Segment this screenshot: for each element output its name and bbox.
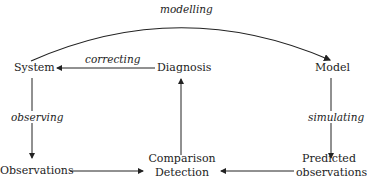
edge-label-modelling: modelling: [160, 3, 213, 15]
node-predicted-observations: Predicted observations: [296, 152, 362, 180]
predicted-label: Predicted: [296, 152, 362, 166]
node-diagnosis: Diagnosis: [157, 61, 211, 75]
node-observations: Observations: [0, 164, 74, 178]
edge-label-observing: observing: [11, 111, 63, 123]
node-comparison-detection: Comparison Detection: [148, 152, 216, 180]
node-system: System: [14, 61, 55, 75]
comparison-label: Comparison: [148, 152, 216, 166]
detection-label: Detection: [148, 166, 216, 180]
observations-label: observations: [296, 166, 362, 180]
edge-label-correcting: correcting: [85, 53, 140, 65]
edge-label-simulating: simulating: [308, 111, 364, 123]
node-model: Model: [315, 61, 350, 75]
modelling-arrow: [31, 28, 330, 61]
